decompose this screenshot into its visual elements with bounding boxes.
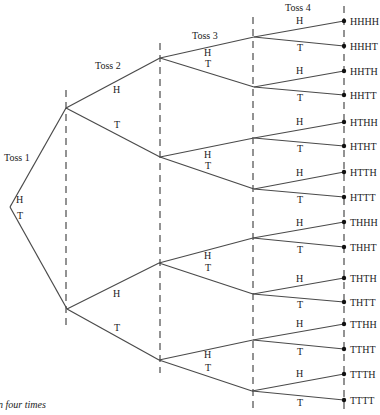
svg-text:T: T	[297, 194, 303, 205]
svg-text:T: T	[297, 143, 303, 154]
outcome-label: HTHH	[350, 117, 378, 128]
outcome-label: TTTH	[350, 369, 376, 380]
outcome-label: HTTH	[350, 167, 377, 178]
toss-4-label: Toss 4	[285, 2, 311, 13]
branch-label-h: H	[204, 349, 211, 360]
outcome-label: THTH	[350, 273, 377, 284]
svg-text:H: H	[296, 273, 303, 284]
svg-text:T: T	[297, 42, 303, 53]
branch-label-t: T	[114, 322, 120, 333]
outcome-label: HTHT	[350, 141, 377, 152]
branch-label-t: T	[205, 58, 211, 69]
outcome-label: THTT	[350, 297, 376, 308]
toss-2-label: Toss 2	[95, 60, 121, 71]
svg-text:H: H	[296, 65, 303, 76]
coin-toss-tree-diagram: Toss 1 Toss 2 Toss 3 Toss 4 H T H T H T …	[0, 0, 380, 415]
svg-text:H: H	[296, 217, 303, 228]
svg-text:T: T	[297, 397, 303, 408]
branch-label-h: H	[113, 288, 120, 299]
figure-caption: n four times	[0, 399, 46, 410]
toss-3-label: Toss 3	[192, 30, 218, 41]
branch-label-h: H	[204, 250, 211, 261]
toss-2-branches	[66, 58, 160, 360]
outcome-label: HTTT	[350, 192, 376, 203]
svg-text:T: T	[297, 346, 303, 357]
branch-label-h: H	[204, 149, 211, 160]
branch-label-h: H	[113, 84, 120, 95]
svg-text:T: T	[297, 299, 303, 310]
svg-text:H: H	[296, 368, 303, 379]
outcome-label: THHH	[350, 217, 378, 228]
svg-text:T: T	[297, 244, 303, 255]
outcome-labels: HHHH HHHT HHTH HHTT HTHH HTHT HTTH HTTT …	[350, 16, 379, 406]
branch-label-t: T	[205, 262, 211, 273]
outcome-label: HHHH	[350, 16, 379, 27]
outcome-label: HHHT	[350, 41, 378, 52]
toss-1-branches	[10, 108, 67, 309]
svg-text:H: H	[296, 318, 303, 329]
branch-label-t: T	[205, 160, 211, 171]
outcome-label: HHTH	[350, 66, 378, 77]
branch-label-t: T	[17, 210, 23, 221]
branch-label-t: T	[114, 119, 120, 130]
outcome-label: TTHT	[350, 344, 376, 355]
outcome-label: THHT	[350, 242, 377, 253]
svg-text:H: H	[296, 116, 303, 127]
branch-label-h: H	[204, 47, 211, 58]
toss-3-branches	[159, 37, 254, 391]
outcome-label: TTHH	[350, 319, 377, 330]
toss-4-branches	[252, 21, 344, 400]
svg-text:T: T	[297, 92, 303, 103]
svg-text:H: H	[296, 167, 303, 178]
branch-label-t: T	[205, 362, 211, 373]
outcome-label: HHTT	[350, 90, 377, 101]
toss-1-label: Toss 1	[4, 152, 30, 163]
branch-label-h: H	[16, 194, 23, 205]
outcome-label: TTTT	[350, 395, 374, 406]
toss-4-branch-labels: H T H T H T H T H T H T H T H T	[296, 15, 303, 408]
svg-text:H: H	[296, 15, 303, 26]
